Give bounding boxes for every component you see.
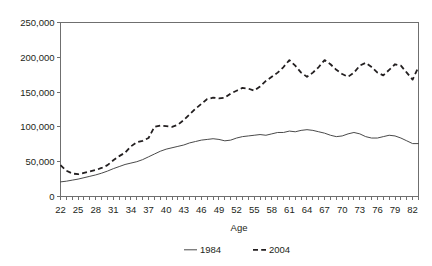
chart-tick-marks: [57, 23, 419, 201]
x-axis-title: Age: [231, 222, 248, 233]
x-tick-label-1: 25: [73, 204, 84, 215]
y-tick-label-0: 0: [49, 191, 54, 202]
line-chart: 050,000100,000150,000200,000250,000 2225…: [0, 0, 432, 266]
x-axis-tick-labels: 2225283134374043464952555861646770737679…: [55, 204, 418, 215]
x-tick-label-8: 46: [196, 204, 207, 215]
x-tick-label-15: 67: [319, 204, 330, 215]
x-tick-label-9: 49: [214, 204, 225, 215]
x-tick-label-10: 52: [231, 204, 242, 215]
x-tick-label-20: 82: [407, 204, 418, 215]
x-tick-label-4: 34: [126, 204, 137, 215]
x-tick-label-2: 28: [90, 204, 101, 215]
y-tick-label-4: 200,000: [20, 52, 54, 63]
x-tick-label-19: 79: [390, 204, 401, 215]
x-tick-label-14: 64: [302, 204, 313, 215]
x-tick-label-18: 76: [372, 204, 383, 215]
series-line-2004: [61, 60, 419, 174]
x-tick-label-17: 73: [355, 204, 366, 215]
x-tick-label-13: 61: [284, 204, 295, 215]
x-tick-label-7: 43: [178, 204, 189, 215]
chart-container: 050,000100,000150,000200,000250,000 2225…: [0, 0, 432, 266]
x-tick-label-3: 31: [108, 204, 119, 215]
plot-frame: [61, 23, 419, 197]
legend-label-1984: 1984: [200, 244, 221, 255]
y-tick-label-5: 250,000: [20, 17, 54, 28]
y-tick-label-3: 150,000: [20, 87, 54, 98]
y-tick-label-2: 100,000: [20, 121, 54, 132]
y-axis-tick-labels: 050,000100,000150,000200,000250,000: [20, 17, 54, 202]
chart-axes: [61, 23, 419, 197]
x-tick-label-5: 37: [143, 204, 154, 215]
x-tick-label-6: 40: [161, 204, 172, 215]
chart-series: [61, 60, 419, 182]
chart-legend: 19842004: [184, 244, 290, 255]
y-tick-label-1: 50,000: [25, 156, 54, 167]
x-tick-label-11: 55: [249, 204, 260, 215]
x-tick-label-12: 58: [266, 204, 277, 215]
x-tick-label-0: 22: [55, 204, 66, 215]
legend-label-2004: 2004: [269, 244, 290, 255]
series-line-1984: [61, 130, 419, 182]
x-tick-label-16: 70: [337, 204, 348, 215]
